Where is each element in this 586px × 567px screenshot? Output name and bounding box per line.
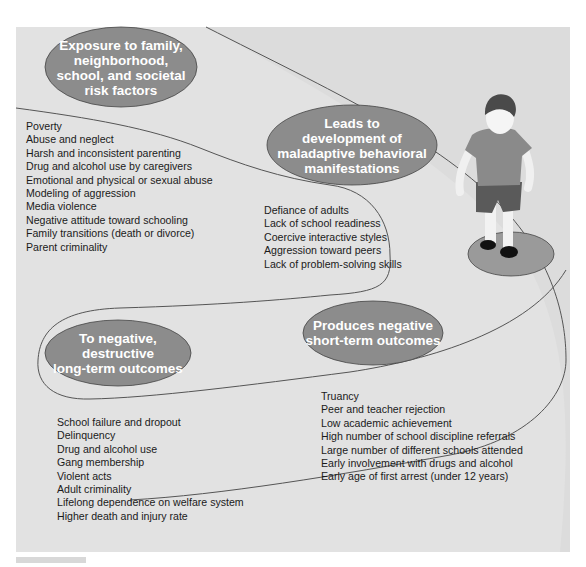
list-item: Low academic achievement xyxy=(321,417,523,430)
maladaptive-list: Defiance of adults Lack of school readin… xyxy=(264,204,402,271)
bubble-maladaptive: Leads to development of maladaptive beha… xyxy=(268,108,436,184)
list-item: Truancy xyxy=(321,390,523,403)
list-item: Early involvement with drugs and alcohol xyxy=(321,457,523,470)
bubble-long-term-label: To negative, destructive long-term outco… xyxy=(42,331,194,376)
bubble-long-term: To negative, destructive long-term outco… xyxy=(42,322,194,384)
bubble-risk-factors-label: Exposure to family, neighborhood, school… xyxy=(56,38,185,98)
list-item: Lack of problem-solving skills xyxy=(264,258,402,271)
list-item: Aggression toward peers xyxy=(264,244,402,257)
list-item: Higher death and injury rate xyxy=(57,510,244,523)
list-item: Poverty xyxy=(26,120,213,133)
list-item: Lack of school readiness xyxy=(264,217,402,230)
figure-caption-stub xyxy=(16,557,86,563)
list-item: Drug and alcohol use xyxy=(57,443,244,456)
list-item: Early age of first arrest (under 12 year… xyxy=(321,470,523,483)
list-item: Negative attitude toward schooling xyxy=(26,214,213,227)
list-item: Modeling of aggression xyxy=(26,187,213,200)
bubble-short-term: Produces negative short-term outcomes xyxy=(303,303,443,363)
list-item: Emotional and physical or sexual abuse xyxy=(26,174,213,187)
bubble-short-term-label: Produces negative short-term outcomes xyxy=(305,318,440,348)
list-item: Family transitions (death or divorce) xyxy=(26,227,213,240)
list-item: Large number of different schools attend… xyxy=(321,444,523,457)
list-item: Adult criminality xyxy=(57,483,244,496)
list-item: Drug and alcohol use by caregivers xyxy=(26,160,213,173)
list-item: Parent criminality xyxy=(26,241,213,254)
list-item: School failure and dropout xyxy=(57,416,244,429)
short-term-list: Truancy Peer and teacher rejection Low a… xyxy=(321,390,523,484)
list-item: High number of school discipline referra… xyxy=(321,430,523,443)
list-item: Peer and teacher rejection xyxy=(321,403,523,416)
list-item: Abuse and neglect xyxy=(26,133,213,146)
list-item: Gang membership xyxy=(57,456,244,469)
bubble-risk-factors: Exposure to family, neighborhood, school… xyxy=(48,31,194,105)
list-item: Harsh and inconsistent parenting xyxy=(26,147,213,160)
bubble-maladaptive-label: Leads to development of maladaptive beha… xyxy=(277,116,426,176)
list-item: Coercive interactive styles xyxy=(264,231,402,244)
list-item: Delinquency xyxy=(57,429,244,442)
risk-factors-list: Poverty Abuse and neglect Harsh and inco… xyxy=(26,120,213,254)
list-item: Lifelong dependence on welfare system xyxy=(57,496,244,509)
list-item: Defiance of adults xyxy=(264,204,402,217)
long-term-list: School failure and dropout Delinquency D… xyxy=(57,416,244,523)
list-item: Violent acts xyxy=(57,470,244,483)
list-item: Media violence xyxy=(26,200,213,213)
